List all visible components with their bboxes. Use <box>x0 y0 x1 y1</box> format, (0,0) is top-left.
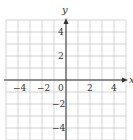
y-tick-label: 2 <box>58 51 64 61</box>
x-tick-label: 4 <box>111 83 117 93</box>
x-tick-label: 0 <box>58 83 64 93</box>
y-tick-label: 4 <box>58 27 64 37</box>
y-axis-label: y <box>61 4 68 15</box>
x-axis-label: x <box>129 74 133 85</box>
y-tick-label: −2 <box>52 99 65 109</box>
x-tick-label: −4 <box>13 83 27 93</box>
y-tick-label: −4 <box>52 123 66 133</box>
y-axis-arrow-icon <box>64 18 69 24</box>
x-axis-arrow-icon <box>122 78 128 83</box>
x-tick-label: −2 <box>37 83 50 93</box>
x-tick-label: 2 <box>87 83 93 93</box>
coordinate-plane: x y −4 −2 0 2 4 4 2 −2 −4 <box>0 0 133 140</box>
